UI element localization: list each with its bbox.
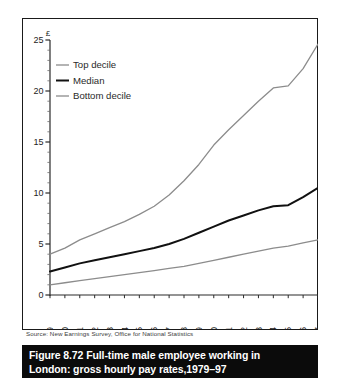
figure-page: 0510152025£19791980198119821983198419851… [0,0,340,391]
source-note: Source: New Earnings Survey, Office for … [26,330,326,337]
y-axis-tick-label: 10 [33,188,43,198]
caption-line-2: London: gross hourly pay rates,1979–97 [29,363,311,377]
figure-caption-bar: Figure 8.72 Full-time male employee work… [22,345,318,378]
y-axis-tick-label: 15 [33,137,43,147]
caption-text-1: Full-time male employee working in [86,349,260,361]
series-line-bottom-decile [50,240,318,285]
y-axis-tick-label: 0 [38,290,43,300]
legend-label-median: Median [73,75,104,86]
legend-label-top-decile: Top decile [73,59,116,70]
caption-line-1: Figure 8.72 Full-time male employee work… [29,349,311,363]
caption-number: Figure 8.72 [29,349,83,361]
line-chart: 0510152025£19791980198119821983198419851… [22,18,318,330]
series-line-median [50,188,318,272]
y-axis-tick-label: 5 [38,239,43,249]
y-axis-unit-label: £ [46,29,51,38]
legend-label-bottom-decile: Bottom decile [73,90,131,101]
y-axis-tick-label: 25 [33,35,43,45]
y-axis-tick-label: 20 [33,86,43,96]
